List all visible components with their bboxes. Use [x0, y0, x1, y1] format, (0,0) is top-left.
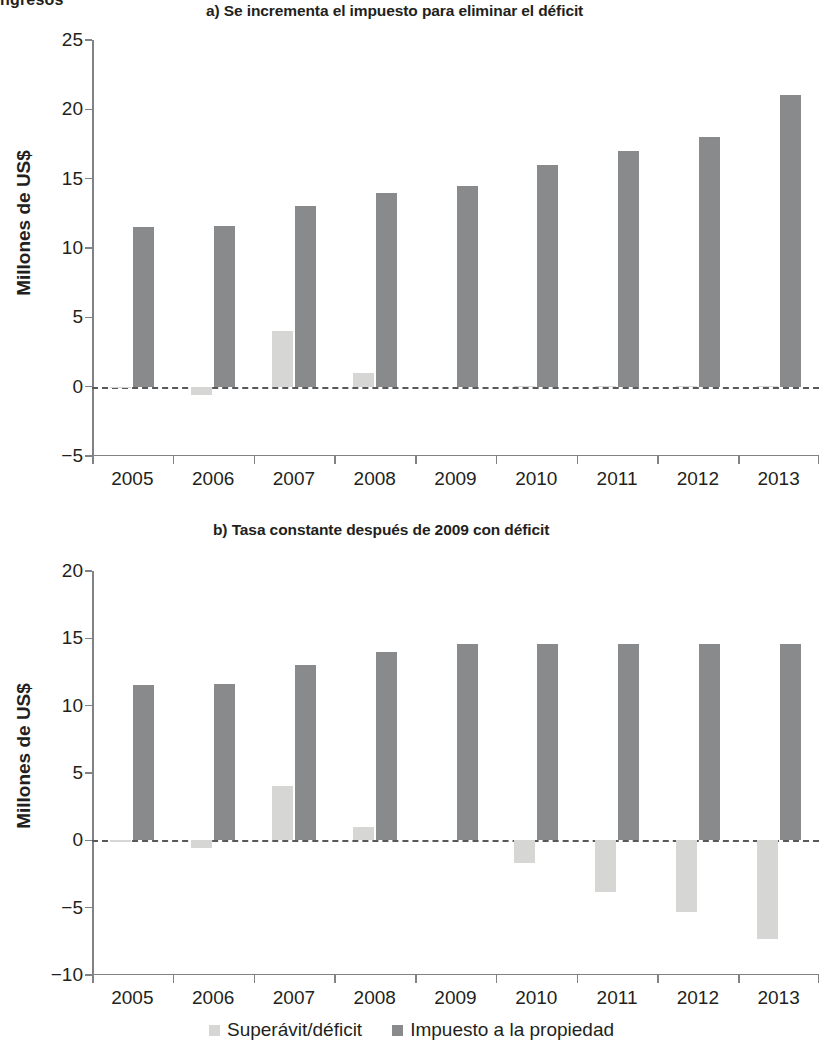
- bar-impuesto-propiedad: [295, 206, 316, 386]
- bar-impuesto-propiedad: [780, 644, 801, 841]
- y-tick-label: 0: [72, 829, 83, 851]
- y-tick-chart-a: [85, 109, 92, 111]
- x-tick-label: 2007: [273, 468, 315, 490]
- x-axis-line-b: [92, 974, 819, 976]
- bar-impuesto-propiedad: [537, 644, 558, 841]
- y-tick-label: 15: [62, 168, 83, 190]
- y-tick-label: 0: [72, 376, 83, 398]
- panel-a-title: a) Se incrementa el impuesto para elimin…: [206, 2, 583, 20]
- bar-superavit-deficit: [110, 387, 131, 388]
- y-tick-label: 10: [62, 695, 83, 717]
- y-tick-chart-b: [85, 638, 92, 640]
- bar-impuesto-propiedad: [457, 186, 478, 387]
- y-tick-chart-b: [85, 705, 92, 707]
- bar-impuesto-propiedad: [295, 665, 316, 840]
- bar-impuesto-propiedad: [618, 644, 639, 841]
- bar-superavit-deficit: [676, 386, 697, 387]
- bar-superavit-deficit: [191, 387, 212, 395]
- x-tick: [173, 456, 175, 464]
- bar-impuesto-propiedad: [537, 165, 558, 387]
- bar-impuesto-propiedad: [618, 151, 639, 387]
- y-tick-chart-a: [85, 178, 92, 180]
- panel-b-title: b) Tasa constante después de 2009 con dé…: [213, 521, 549, 539]
- x-tick: [738, 456, 740, 464]
- x-tick: [657, 456, 659, 464]
- y-tick-chart-a: [85, 317, 92, 319]
- y-tick-chart-a: [85, 386, 92, 388]
- x-tick-label: 2010: [515, 468, 557, 490]
- y-tick-label: −10: [51, 964, 83, 986]
- y-tick-label: 20: [62, 560, 83, 582]
- x-tick: [818, 975, 820, 983]
- bar-impuesto-propiedad: [376, 193, 397, 387]
- x-tick: [254, 975, 256, 983]
- plot-area-a: −50510152025: [92, 40, 819, 456]
- bar-impuesto-propiedad: [376, 652, 397, 841]
- bar-superavit-deficit: [514, 386, 535, 387]
- x-tick-label: 2005: [111, 468, 153, 490]
- y-tick-label: −5: [61, 897, 83, 919]
- x-tick-label: 2013: [757, 468, 799, 490]
- x-tick: [496, 456, 498, 464]
- legend-swatch-icon: [392, 1025, 403, 1036]
- x-tick-label: 2006: [192, 468, 234, 490]
- y-tick-label: 10: [62, 237, 83, 259]
- x-tick-label: 2009: [434, 468, 476, 490]
- bar-impuesto-propiedad: [133, 685, 154, 840]
- x-tick-label: 2013: [757, 987, 799, 1009]
- legend-label: Superávit/déficit: [227, 1019, 362, 1041]
- x-tick: [657, 975, 659, 983]
- y-tick-label: 15: [62, 627, 83, 649]
- legend-item-tax[interactable]: Impuesto a la propiedad: [392, 1019, 614, 1041]
- x-tick-label: 2012: [677, 468, 719, 490]
- bar-impuesto-propiedad: [780, 95, 801, 386]
- y-tick-label: 5: [72, 306, 83, 328]
- legend-label: Impuesto a la propiedad: [410, 1019, 614, 1041]
- x-tick-label: 2007: [273, 987, 315, 1009]
- y-tick-label: 20: [62, 98, 83, 120]
- x-tick: [254, 456, 256, 464]
- bar-impuesto-propiedad: [133, 227, 154, 386]
- plot-area-b: −10−505101520: [92, 571, 819, 975]
- chart-panel-b: −10−505101520 20052006200720082009201020…: [0, 552, 823, 1012]
- x-tick: [738, 975, 740, 983]
- bar-superavit-deficit: [272, 786, 293, 840]
- bar-superavit-deficit: [191, 840, 212, 848]
- bar-impuesto-propiedad: [214, 684, 235, 840]
- bar-superavit-deficit: [757, 840, 778, 938]
- x-tick: [496, 975, 498, 983]
- y-tick-chart-b: [85, 840, 92, 842]
- bar-superavit-deficit: [595, 840, 616, 891]
- y-tick-chart-b: [85, 907, 92, 909]
- x-tick-label: 2008: [354, 468, 396, 490]
- bar-superavit-deficit: [595, 386, 616, 387]
- x-tick: [334, 975, 336, 983]
- x-tick: [173, 975, 175, 983]
- x-tick-label: 2011: [597, 987, 638, 1009]
- bar-superavit-deficit: [514, 840, 535, 863]
- x-tick: [92, 456, 94, 464]
- x-tick-label: 2011: [597, 468, 638, 490]
- y-tick-chart-a: [85, 455, 92, 457]
- x-tick: [818, 456, 820, 464]
- cutoff-heading-fragment: ngresos: [0, 0, 64, 10]
- x-tick-label: 2006: [192, 987, 234, 1009]
- x-tick: [415, 456, 417, 464]
- bar-impuesto-propiedad: [699, 644, 720, 841]
- x-tick: [334, 456, 336, 464]
- x-tick-label: 2010: [515, 987, 557, 1009]
- x-tick-label: 2012: [677, 987, 719, 1009]
- x-tick: [577, 975, 579, 983]
- chart-panel-a: −50510152025 200520062007200820092010201…: [0, 26, 823, 486]
- y-axis-line-a: [92, 40, 94, 456]
- bar-impuesto-propiedad: [457, 644, 478, 841]
- x-tick-label: 2009: [434, 987, 476, 1009]
- y-tick-label: −5: [61, 445, 83, 467]
- x-tick-label: 2008: [354, 987, 396, 1009]
- legend-item-surplus[interactable]: Superávit/déficit: [209, 1019, 362, 1041]
- x-tick: [92, 975, 94, 983]
- bar-superavit-deficit: [353, 827, 374, 840]
- figure-page: ngresos a) Se incrementa el impuesto par…: [0, 0, 823, 1055]
- y-tick-chart-a: [85, 39, 92, 41]
- x-tick-label: 2005: [111, 987, 153, 1009]
